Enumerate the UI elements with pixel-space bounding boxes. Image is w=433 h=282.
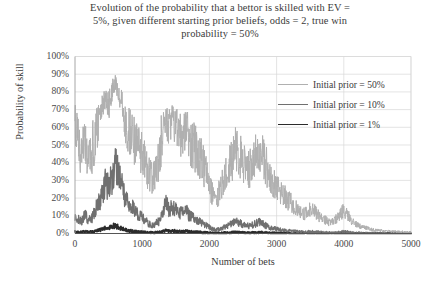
legend-item: Initial prior = 10% <box>278 94 428 114</box>
legend-item-label: Initial prior = 10% <box>313 99 385 110</box>
legend-swatch-line-icon <box>278 104 308 105</box>
legend-item-label: Initial prior = 1% <box>313 119 380 130</box>
legend-item: Initial prior = 1% <box>278 114 428 134</box>
plot-area <box>0 0 433 282</box>
legend-item: Initial prior = 50% <box>278 74 428 94</box>
legend-item-label: Initial prior = 50% <box>313 79 385 90</box>
legend-swatch-line-icon <box>278 84 308 85</box>
chart-legend: Initial prior = 50%Initial prior = 10%In… <box>278 74 428 134</box>
chart-container: Evolution of the probability that a bett… <box>0 0 433 282</box>
legend-swatch-line-icon <box>278 124 308 125</box>
